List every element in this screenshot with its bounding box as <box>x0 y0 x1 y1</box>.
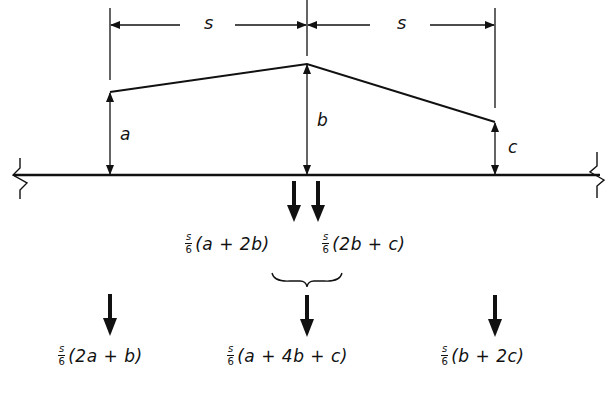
extension-lines <box>110 0 495 108</box>
ordinate-label-a: a <box>120 124 130 144</box>
fraction-s-over-6: s 6 <box>58 344 65 367</box>
load-expression: (2b + c) <box>332 234 405 254</box>
resultant-load-right: s 6 (b + 2c) <box>441 344 525 367</box>
ordinate-label-c: c <box>508 137 517 157</box>
load-expression: (a + 4b + c) <box>237 346 348 366</box>
intermediate-load-left: s 6 (a + 2b) <box>185 232 270 255</box>
resultant-load-left: s 6 (2a + b) <box>58 344 143 367</box>
load-expression: (b + 2c) <box>451 346 524 366</box>
dimension-label-left-s: s <box>204 12 213 33</box>
dimension-label-right-s: s <box>397 12 406 33</box>
resultant-arrows <box>103 294 502 337</box>
ordinate-arrows <box>110 65 495 174</box>
fraction-s-over-6: s 6 <box>185 232 192 255</box>
fraction-s-over-6: s 6 <box>322 232 329 255</box>
load-expression: (a + 2b) <box>195 234 269 254</box>
load-expression: (2a + b) <box>68 346 142 366</box>
fraction-s-over-6: s 6 <box>227 344 234 367</box>
resultant-load-middle: s 6 (a + 4b + c) <box>227 344 348 367</box>
fraction-s-over-6: s 6 <box>441 344 448 367</box>
intermediate-arrows <box>287 181 325 222</box>
ordinate-label-b: b <box>317 110 328 130</box>
load-profile-line <box>110 64 495 122</box>
combine-brace <box>272 273 342 287</box>
intermediate-load-right: s 6 (2b + c) <box>322 232 406 255</box>
